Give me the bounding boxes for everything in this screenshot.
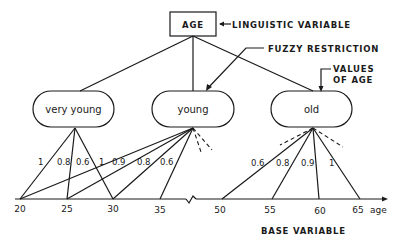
tick-65: 65 [352, 205, 363, 215]
tick-25: 25 [61, 204, 72, 214]
grade-old-50: 0.6 [251, 158, 265, 168]
tick-50: 50 [214, 205, 226, 215]
old-to-65 [313, 128, 360, 199]
tick-60: 60 [314, 206, 326, 216]
axis-arrow-icon [382, 197, 388, 202]
values-of-age-label-2: OF AGE [333, 75, 373, 85]
fuzzy-age-diagram: AGE LINGUISTIC VARIABLE FUZZY RESTRICTIO… [0, 0, 401, 247]
young-dashed-2 [193, 128, 212, 150]
tick-55: 55 [264, 205, 275, 215]
grade-young-30: 0.8 [137, 157, 151, 167]
tick-30: 30 [107, 204, 119, 214]
arrowhead-icon [219, 22, 224, 27]
linguistic-variable-label: LINGUISTIC VARIABLE [232, 20, 351, 30]
grade-very-young-20: 1 [38, 157, 43, 167]
tick-35: 35 [154, 205, 165, 215]
grade-old-55: 0.8 [276, 158, 290, 168]
fuzzy-restriction-label: FUZZY RESTRICTION [268, 44, 379, 54]
node-old-label: old [304, 104, 319, 115]
grade-young-35: 0.6 [160, 157, 174, 167]
grade-young-20: 1 [99, 157, 104, 167]
node-very-young-label: very young [45, 104, 101, 115]
values-of-age-label-1: VALUES [333, 64, 374, 74]
grade-young-25: 0.9 [112, 157, 126, 167]
axis-break-icon [186, 196, 196, 203]
young-dashed-1 [193, 128, 201, 152]
grade-old-60: 0.9 [301, 158, 315, 168]
values-of-age-pointer [321, 69, 331, 88]
base-variable-label: BASE VARIABLE [261, 226, 346, 236]
old-dashed-right [313, 128, 343, 147]
node-young-label: young [177, 104, 208, 115]
old-to-50 [222, 128, 313, 199]
grade-very-young-25: 0.8 [57, 157, 71, 167]
axis-unit-label: age [370, 205, 387, 215]
root-node-label: AGE [182, 20, 204, 30]
edge-age-very-young [80, 36, 193, 91]
grade-very-young-30: 0.6 [76, 157, 90, 167]
fuzzy-restriction-pointer [208, 48, 264, 88]
tick-20: 20 [14, 204, 26, 214]
grade-old-65: 1 [329, 158, 334, 168]
